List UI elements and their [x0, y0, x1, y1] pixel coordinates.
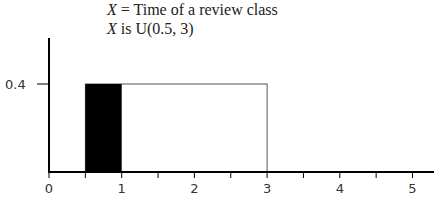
x-tick-label: 3 [263, 181, 271, 196]
y-tick-label: 0.4 [5, 77, 26, 92]
x-tick-label: 1 [118, 181, 126, 196]
shaded-probability-region [85, 84, 121, 172]
x-tick-label: 4 [336, 181, 344, 196]
uniform-pdf-chart: 0123450.4 [0, 0, 434, 197]
x-tick-label: 2 [190, 181, 198, 196]
x-tick-label: 0 [45, 181, 53, 196]
x-tick-label: 5 [408, 181, 416, 196]
